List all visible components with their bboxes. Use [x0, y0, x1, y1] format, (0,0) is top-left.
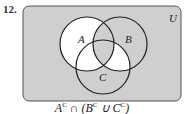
caption-set-b: B — [85, 101, 92, 114]
caption-set-c: C — [113, 101, 121, 114]
caption-op: ∩ ( — [67, 101, 86, 114]
caption-op: ) — [125, 101, 129, 114]
label-universe: U — [169, 12, 178, 24]
label-a: A — [77, 33, 85, 45]
label-c: C — [99, 71, 107, 83]
label-b: B — [125, 33, 132, 45]
caption-op: ∪ — [98, 101, 113, 114]
set-expression-caption: AC ∩ (BC ∪ CC) — [0, 101, 184, 114]
venn-diagram: A B C U — [0, 0, 184, 114]
